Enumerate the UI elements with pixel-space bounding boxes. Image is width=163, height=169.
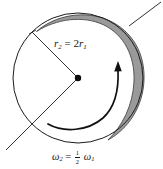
rotation-direction-arrow	[48, 70, 118, 130]
radius-line-lower	[6, 78, 78, 150]
figure-canvas	[0, 0, 163, 169]
disk-center-dot	[75, 75, 81, 81]
radius-line-upper	[32, 32, 78, 78]
radius-endpoint-tick	[29, 30, 36, 34]
outer-rim-band	[37, 15, 145, 140]
rim-leader-line	[129, 2, 161, 26]
rotating-disk-figure: r2 = 2r1 ω2 = 12 ω1	[0, 0, 163, 169]
rotation-arrowhead-icon	[114, 61, 122, 72]
